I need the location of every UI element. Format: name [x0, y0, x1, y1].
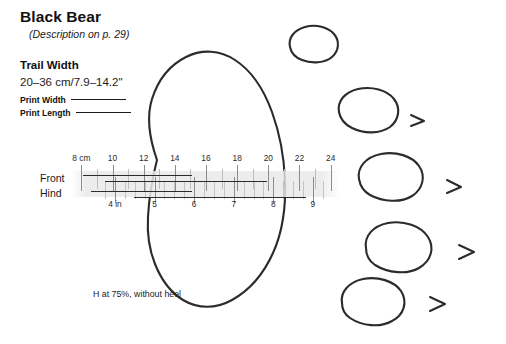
- toe-pad-1: [290, 26, 338, 63]
- ruler-tick-in-9.25: [323, 181, 324, 199]
- ruler-row-label-hind: Hind: [40, 187, 62, 199]
- ruler-tick-cm-16: [206, 165, 207, 191]
- toe-claw-3: [447, 180, 461, 193]
- bar-hind-print-width: [91, 191, 192, 192]
- bar-front-print-length: [105, 181, 267, 182]
- toe-claw-4: [459, 245, 474, 259]
- ruler-tick-cm-20: [268, 165, 269, 191]
- ruler-label-cm-10: 10: [108, 153, 117, 163]
- measurement-ruler: Front Hind 8 cm10121416182022244 in56789: [72, 155, 340, 213]
- ruler-tick-cm-17: [222, 169, 223, 189]
- toe-pad-5: [342, 278, 405, 325]
- ruler-tick-cm-8: [81, 165, 82, 191]
- ruler-tick-cm-23: [315, 169, 316, 189]
- ruler-tick-cm-18: [237, 165, 238, 191]
- ruler-tick-in-4.25: [125, 181, 126, 199]
- ruler-tick-cm-13: [159, 169, 160, 189]
- ruler-label-cm-8: 8 cm: [72, 153, 90, 163]
- bar-front-print-width: [83, 175, 192, 176]
- ruler-label-in-8: 8: [271, 199, 276, 209]
- legend-label-print-length: Print Length: [20, 108, 71, 118]
- ruler-tick-cm-11: [128, 169, 129, 189]
- legend-swatch-print-width: [71, 99, 126, 100]
- legend-item-print-length: Print Length: [20, 107, 230, 118]
- ruler-label-cm-18: 18: [232, 153, 241, 163]
- trail-width-block: Trail Width 20–36 cm/7.9–14.2": [20, 59, 250, 90]
- ruler-label-in-5: 5: [152, 199, 157, 209]
- ruler-label-cm-24: 24: [326, 153, 335, 163]
- ruler-label-cm-22: 22: [295, 153, 304, 163]
- legend-swatch-print-length: [76, 112, 131, 113]
- ruler-label-cm-16: 16: [201, 153, 210, 163]
- toe-claw-2: [411, 115, 424, 126]
- ruler-tick-cm-24: [331, 165, 332, 191]
- description-reference: (Description on p. 29): [29, 28, 240, 40]
- trail-width-label: Trail Width: [20, 59, 250, 73]
- ruler-tick-cm-15: [190, 169, 191, 189]
- header-block: Black Bear (Description on p. 29): [20, 8, 240, 40]
- ruler-label-cm-14: 14: [170, 153, 179, 163]
- toe-pad-3: [359, 153, 423, 201]
- black-bear-track-plate: Black Bear (Description on p. 29) Trail …: [0, 0, 506, 344]
- ruler-row-label-front: Front: [40, 172, 65, 184]
- toe-pad-4: [366, 222, 432, 272]
- ruler-label-in-9: 9: [311, 199, 316, 209]
- ruler-label-in-4: 4 in: [108, 199, 122, 209]
- ruler-label-cm-12: 12: [139, 153, 148, 163]
- legend-label-print-width: Print Width: [20, 95, 66, 105]
- ruler-tick-cm-10: [113, 165, 114, 191]
- trail-width-value: 20–36 cm/7.9–14.2": [20, 75, 250, 90]
- toe-claw-5: [430, 297, 445, 311]
- ruler-label-in-6: 6: [192, 199, 197, 209]
- ruler-label-cm-20: 20: [264, 153, 273, 163]
- scale-caption: H at 75%, without heel: [93, 289, 181, 299]
- bar-hind-print-length: [134, 197, 305, 198]
- toe-pad-2: [339, 88, 399, 132]
- ruler-tick-cm-9: [97, 169, 98, 189]
- ruler-tick-cm-22: [299, 165, 300, 191]
- ruler-label-in-7: 7: [231, 199, 236, 209]
- ruler-tick-in-3.75: [105, 181, 106, 199]
- page-title: Black Bear: [20, 8, 240, 26]
- legend: Print Width Print Length: [20, 94, 230, 120]
- legend-item-print-width: Print Width: [20, 94, 230, 105]
